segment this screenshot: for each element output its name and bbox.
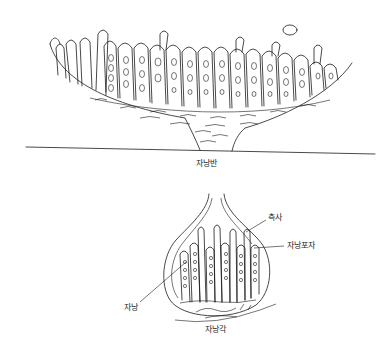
fungal-fruiting-body-figure: 자낭반	[0, 0, 392, 347]
leader-paraphysis	[246, 220, 266, 232]
perithecium-asci	[180, 225, 259, 302]
label-paraphysis: 측사	[268, 214, 282, 222]
leader-ascus	[140, 262, 186, 302]
label-ascospore: 자낭포자	[287, 242, 315, 250]
ascospores-bottom	[183, 252, 256, 287]
perithecium-label: 자낭각	[205, 326, 226, 334]
label-ascus: 자낭	[124, 304, 138, 312]
perithecium-drawing	[0, 0, 392, 347]
